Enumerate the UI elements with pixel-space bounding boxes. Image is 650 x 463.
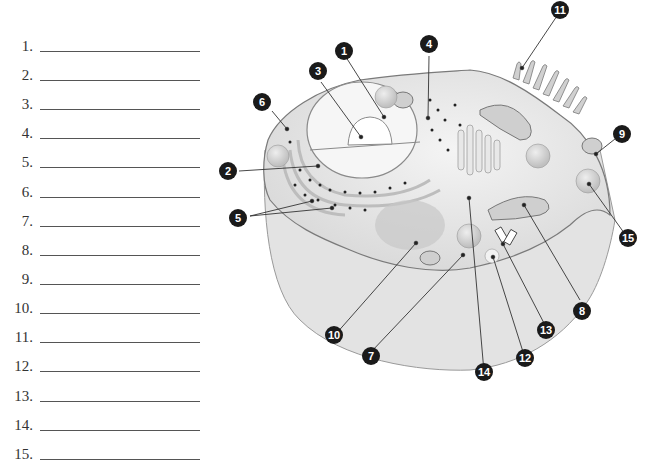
callout-11: 11	[551, 1, 569, 19]
svg-text:12: 12	[519, 352, 531, 364]
callout-14: 14	[475, 363, 493, 381]
svg-text:13: 13	[540, 324, 552, 336]
animal-cell-diagram: 1 2 3 4 5 6 7 8 9 10 11 12 13 14 15	[0, 0, 650, 463]
callout-5: 5	[229, 209, 247, 227]
svg-text:11: 11	[554, 4, 566, 16]
svg-text:5: 5	[235, 212, 241, 224]
callout-6: 6	[253, 93, 271, 111]
svg-text:9: 9	[619, 128, 625, 140]
callout-9: 9	[613, 125, 631, 143]
callout-12: 12	[516, 349, 534, 367]
svg-text:1: 1	[341, 45, 347, 57]
callout-4: 4	[420, 35, 438, 53]
svg-text:3: 3	[315, 65, 321, 77]
svg-text:7: 7	[368, 350, 374, 362]
svg-text:14: 14	[478, 366, 491, 378]
svg-text:2: 2	[225, 165, 231, 177]
svg-text:6: 6	[259, 96, 265, 108]
cytoplasm-dark	[375, 200, 445, 250]
callout-7: 7	[362, 347, 380, 365]
callout-2: 2	[219, 162, 237, 180]
callout-1: 1	[335, 42, 353, 60]
callout-8: 8	[573, 302, 591, 320]
svg-text:10: 10	[328, 329, 340, 341]
svg-text:4: 4	[426, 38, 433, 50]
callout-15: 15	[619, 229, 637, 247]
svg-text:8: 8	[579, 305, 585, 317]
callout-13: 13	[537, 321, 555, 339]
svg-text:15: 15	[622, 232, 634, 244]
callout-3: 3	[309, 62, 327, 80]
callout-10: 10	[325, 326, 343, 344]
